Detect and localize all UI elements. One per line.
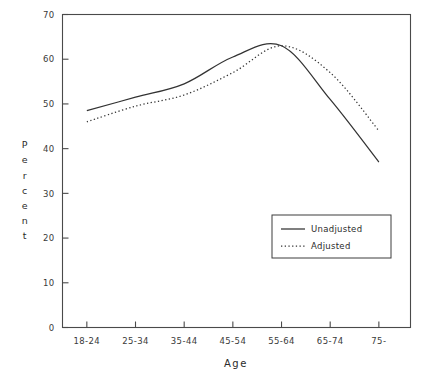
y-axis-label-char: r: [23, 170, 30, 181]
y-tick-label: 40: [43, 144, 55, 154]
y-tick-label: 60: [43, 54, 55, 64]
y-tick-label: 10: [43, 278, 55, 288]
y-tick-label: 50: [43, 99, 55, 109]
y-axis: 010203040506070: [43, 10, 69, 333]
y-tick-label: 70: [43, 10, 55, 20]
y-axis-label-char: t: [23, 230, 29, 241]
series-line-adjusted: [87, 46, 379, 131]
data-series-group: [87, 44, 379, 163]
series-line-unadjusted: [87, 44, 379, 163]
x-tick-label: 25-34: [122, 336, 149, 346]
y-axis-label-char: e: [22, 154, 30, 165]
plot-frame: [63, 15, 411, 328]
chart-legend: UnadjustedAdjusted: [272, 215, 391, 258]
x-axis-label: Age: [224, 358, 248, 369]
legend-label-unadjusted: Unadjusted: [311, 224, 362, 234]
x-tick-label: 35-44: [171, 336, 198, 346]
x-tick-label: 45-54: [219, 336, 246, 346]
y-tick-label: 0: [49, 323, 55, 333]
line-chart: 010203040506070 18-2425-3435-4445-5455-6…: [0, 0, 421, 378]
x-tick-label: 55-64: [268, 336, 295, 346]
legend-label-adjusted: Adjusted: [311, 241, 351, 251]
chart-container: 010203040506070 18-2425-3435-4445-5455-6…: [0, 0, 421, 378]
x-axis: 18-2425-3435-4445-5455-6465-7475-: [73, 322, 386, 346]
x-tick-label: 75-: [371, 336, 386, 346]
x-tick-label: 65-74: [317, 336, 344, 346]
y-tick-label: 20: [43, 233, 55, 243]
y-axis-label-char: P: [22, 139, 30, 150]
y-tick-label: 30: [43, 189, 55, 199]
x-tick-label: 18-24: [73, 336, 100, 346]
y-axis-label-char: n: [22, 215, 31, 226]
y-axis-label-char: c: [22, 185, 30, 196]
y-axis-label-char: e: [22, 200, 30, 211]
y-axis-label: Percent: [22, 139, 31, 241]
